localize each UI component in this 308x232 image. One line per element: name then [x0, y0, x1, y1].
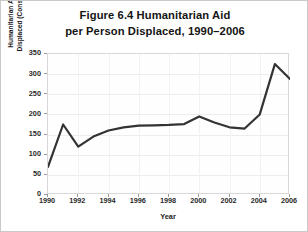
- x-axis-tick-label: 1998: [151, 197, 185, 205]
- chart-title-line-2: per Person Displaced, 1990–2006: [1, 24, 308, 40]
- y-axis-tick-label: 100: [15, 150, 41, 157]
- line-series: [48, 54, 290, 195]
- y-axis-tick-label: 50: [15, 170, 41, 177]
- y-axis-tick-label: 150: [15, 130, 41, 137]
- x-axis-title: Year: [47, 212, 289, 221]
- chart-title: Figure 6.4 Humanitarian Aid per Person D…: [1, 8, 308, 39]
- y-axis-title-line-1: Humanitarian Aid per Person: [7, 0, 16, 73]
- chart-title-line-1: Figure 6.4 Humanitarian Aid: [80, 9, 231, 21]
- x-axis-tick-label: 1994: [91, 197, 125, 205]
- x-axis-ticks: 199019921994199619982000200220042006: [1, 197, 308, 209]
- y-axis-title: Humanitarian Aid per Person Displaced (C…: [7, 0, 27, 73]
- x-axis-tick-label: 2002: [212, 197, 246, 205]
- x-axis-tick-label: 1996: [121, 197, 155, 205]
- plot-area: [47, 53, 289, 194]
- x-axis-tick-label: 2000: [181, 197, 215, 205]
- y-axis-tick-label: 200: [15, 110, 41, 117]
- y-axis-title-line-2: Displaced (Constant 2007 USD): [16, 0, 25, 73]
- figure-chart: Figure 6.4 Humanitarian Aid per Person D…: [0, 0, 308, 232]
- x-axis-tick-label: 2006: [272, 197, 306, 205]
- x-axis-tick-label: 1990: [30, 197, 64, 205]
- y-axis-tick-label: 250: [15, 90, 41, 97]
- x-axis-tick-label: 1992: [60, 197, 94, 205]
- x-axis-tick-label: 2004: [242, 197, 276, 205]
